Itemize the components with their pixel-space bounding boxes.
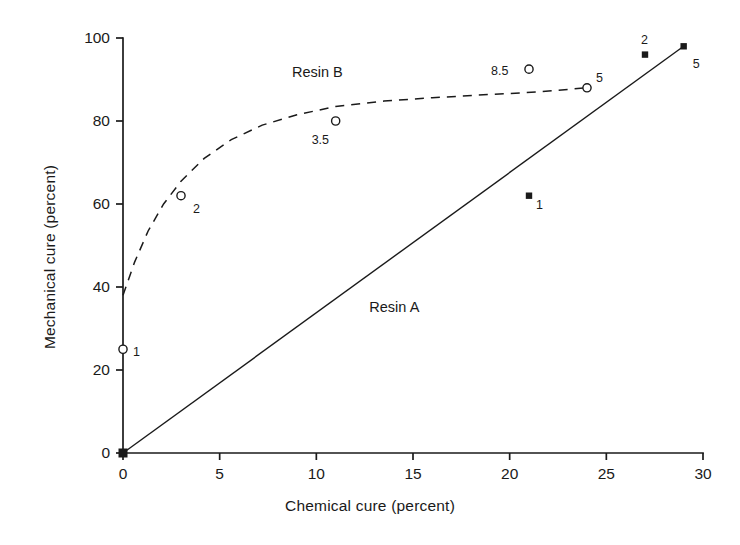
y-tick-label: 60 [55,195,110,213]
data-point-label: 5 [596,71,603,85]
x-tick-label: 10 [308,465,325,483]
series-label-resin-a: Resin A [369,299,419,315]
y-tick-label: 20 [55,361,110,379]
data-point-label: 1 [536,198,543,212]
x-tick-label: 15 [404,465,421,483]
series-label-resin-b: Resin B [292,64,343,80]
series-group [119,43,687,457]
y-tick-label: 80 [55,112,110,130]
data-point-label: 3.5 [312,133,329,147]
x-tick-label: 0 [119,465,128,483]
data-point-label: 1 [133,345,140,359]
plot-canvas [0,0,740,545]
data-point-label: 2 [193,202,200,216]
chart-figure: Chemical cure (percent) Mechanical cure … [0,0,740,545]
data-point-label: 8.5 [491,64,508,78]
y-tick-label: 40 [55,278,110,296]
x-axis-title: Chemical cure (percent) [0,497,740,515]
data-point-label: 2 [641,33,648,47]
y-tick-label: 0 [55,444,110,462]
data-point-label: 5 [693,57,700,71]
x-tick-label: 25 [598,465,615,483]
y-tick-label: 100 [55,29,110,47]
x-tick-label: 20 [501,465,518,483]
axes-group [116,38,703,460]
x-tick-label: 5 [215,465,224,483]
x-tick-label: 30 [694,465,711,483]
